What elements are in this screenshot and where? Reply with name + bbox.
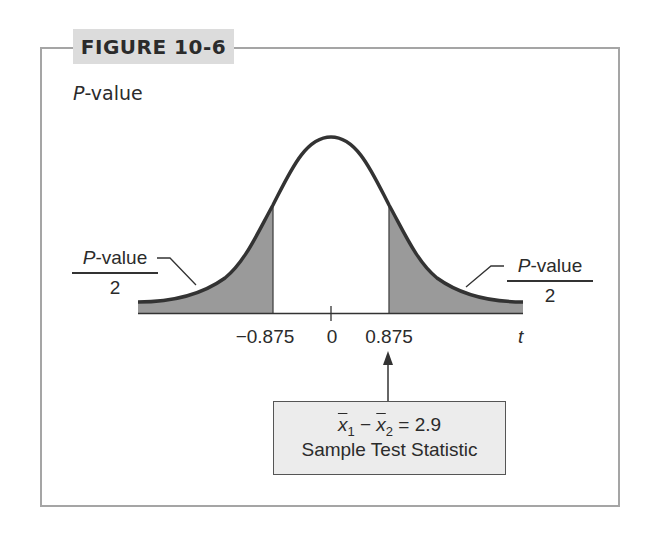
right-label-p: P	[518, 255, 531, 276]
sub-1: 1	[347, 424, 354, 439]
minus-sign: −	[355, 414, 377, 435]
axis-label-t: t	[518, 326, 523, 348]
x-bar-2: x	[376, 414, 386, 435]
left-tail-shaded-area	[138, 137, 523, 313]
tick-label-pos: 0.875	[365, 326, 413, 348]
statistic-caption: Sample Test Statistic	[301, 439, 477, 462]
sample-test-statistic-box: x1 − x2 = 2.9 Sample Test Statistic	[273, 401, 506, 475]
bell-curve	[138, 137, 523, 302]
tick-label-zero: 0	[327, 326, 338, 348]
left-tail-label: P-value 2	[72, 247, 158, 299]
right-tail-label: P-value 2	[507, 255, 593, 307]
right-leader-line	[466, 266, 504, 287]
sub-2: 2	[386, 424, 393, 439]
tick-label-neg: −0.875	[236, 326, 295, 348]
right-tail-shaded-area	[138, 137, 523, 313]
left-label-den: 2	[72, 274, 158, 299]
left-label-value: -value	[95, 247, 147, 268]
equals-value: = 2.9	[393, 414, 441, 435]
x-bar-1: x	[338, 414, 348, 435]
right-label-value: -value	[530, 255, 582, 276]
statistic-formula: x1 − x2 = 2.9	[338, 414, 441, 439]
left-leader-line	[157, 258, 196, 285]
right-label-den: 2	[507, 282, 593, 307]
arrow-head-icon	[383, 351, 393, 365]
left-label-p: P	[83, 247, 96, 268]
